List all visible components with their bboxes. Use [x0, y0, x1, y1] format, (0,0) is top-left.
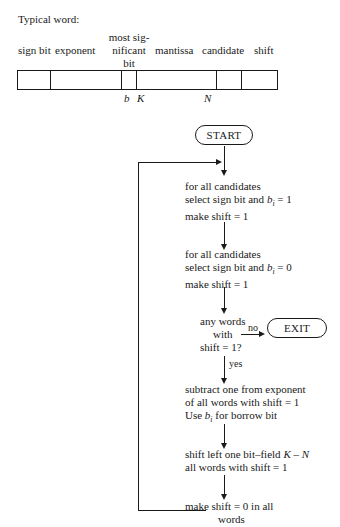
field-label-mantissa: mantissa [155, 44, 194, 57]
field-label-msb: most sig- nificant bit [104, 31, 154, 70]
step-select-bi-1: for all candidates select sign bit and b… [185, 180, 292, 223]
divider-exponent-msb [121, 71, 122, 89]
divider-mantissa-candidate [216, 71, 217, 89]
step-shift-left: shift left one bit–field K – N all words… [185, 448, 309, 474]
field-label-exponent: exponent [55, 44, 95, 57]
word-format-title: Typical word: [18, 13, 79, 26]
decision-line2: with [213, 328, 233, 341]
marker-b: b [124, 92, 130, 105]
arrowhead-icon [259, 331, 265, 337]
step3-line2: of all words with shift = 1 [185, 396, 306, 409]
arrow-start-step1 [224, 146, 225, 171]
branch-label-no: no [248, 321, 258, 334]
msb-line-3: bit [104, 57, 154, 70]
start-terminal: START [195, 125, 253, 145]
step2-line3: make shift = 1 [185, 278, 292, 291]
step3-line3: Use bi for borrow bit [185, 409, 306, 426]
exit-terminal: EXIT [267, 318, 327, 338]
step-clear-shift: make shift = 0 in all words [185, 500, 273, 526]
decision-line1: any words [200, 315, 246, 328]
field-label-sign-bit: sign bit [18, 44, 51, 57]
step-select-bi-0: for all candidates select sign bit and b… [185, 248, 292, 291]
step1-line2: select sign bit and bi = 1 [185, 193, 292, 210]
step2-line1: for all candidates [185, 248, 292, 261]
field-label-candidate: candidate [202, 44, 244, 57]
arrow-step1-step2 [224, 222, 225, 245]
arrowhead-icon [221, 170, 227, 176]
step1-line1: for all candidates [185, 180, 292, 193]
step4-line1: shift left one bit–field K – N [185, 448, 309, 461]
msb-line-1: most sig- [104, 31, 154, 44]
loop-top-line [138, 162, 218, 163]
step2-line2: select sign bit and bi = 0 [185, 261, 292, 278]
marker-K: K [137, 92, 144, 105]
divider-sign-exponent [50, 71, 51, 89]
arrow-yes-step3 [224, 356, 225, 380]
loop-arrowhead-icon [216, 159, 222, 165]
word-field-box [17, 70, 278, 90]
msb-line-2: nificant [104, 44, 154, 57]
step5-line2: words [185, 513, 273, 526]
loop-vertical-line [138, 162, 139, 511]
branch-label-yes: yes [229, 357, 242, 370]
marker-N: N [204, 92, 211, 105]
field-label-shift: shift [254, 44, 274, 57]
arrowhead-icon [221, 308, 227, 314]
arrow-step4-step5 [224, 475, 225, 495]
step1-line3: make shift = 1 [185, 210, 292, 223]
step5-line1: make shift = 0 in all [185, 500, 273, 513]
arrow-step2-decision [224, 287, 225, 309]
step-subtract-exponent: subtract one from exponent of all words … [185, 383, 306, 426]
arrow-step3-step4 [224, 424, 225, 444]
divider-candidate-shift [241, 71, 242, 89]
arrow-no-exit [241, 334, 261, 335]
step4-line2: all words with shift = 1 [185, 461, 309, 474]
decision-line3: shift = 1? [200, 341, 242, 354]
step3-line1: subtract one from exponent [185, 383, 306, 396]
divider-msb-mantissa [136, 71, 137, 89]
